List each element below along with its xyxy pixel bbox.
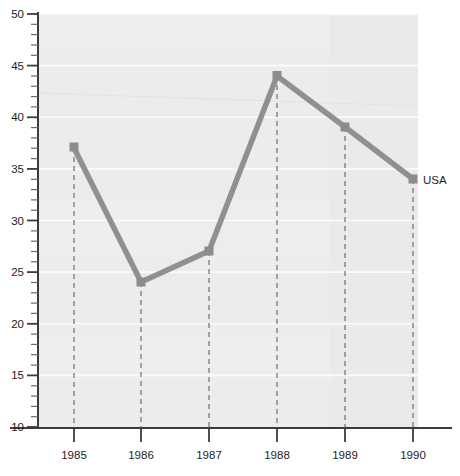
y-tick-label: 20 xyxy=(11,318,24,330)
y-tick-label: 40 xyxy=(11,111,24,123)
data-point-marker xyxy=(341,123,350,132)
data-point-marker xyxy=(70,143,79,152)
x-axis-ticks xyxy=(74,428,413,442)
line-chart: 50 45 40 35 30 25 20 15 10 1985 1986 198… xyxy=(0,0,460,476)
x-tick-label: 1986 xyxy=(128,449,154,461)
y-tick-label: 25 xyxy=(11,266,24,278)
x-tick-label: 1989 xyxy=(332,449,358,461)
data-point-marker xyxy=(137,278,146,287)
y-axis-tick-labels: 50 45 40 35 30 25 20 15 10 xyxy=(11,8,24,433)
y-tick-label: 50 xyxy=(11,8,24,20)
data-point-marker xyxy=(205,247,214,256)
x-axis-tick-labels: 1985 1986 1987 1988 1989 1990 xyxy=(61,449,426,461)
chart-canvas: 50 45 40 35 30 25 20 15 10 1985 1986 198… xyxy=(0,0,460,476)
data-point-marker xyxy=(409,175,418,184)
x-tick-label: 1987 xyxy=(196,449,222,461)
x-tick-label: 1990 xyxy=(400,449,426,461)
y-tick-label: 30 xyxy=(11,215,24,227)
y-tick-label: 45 xyxy=(11,60,24,72)
x-tick-label: 1988 xyxy=(264,449,290,461)
series-label-usa: USA xyxy=(423,174,447,186)
y-tick-label: 35 xyxy=(11,163,24,175)
y-tick-label: 15 xyxy=(11,369,24,381)
y-tick-label: 10 xyxy=(11,421,24,433)
data-point-marker xyxy=(273,71,282,80)
x-tick-label: 1985 xyxy=(61,449,87,461)
